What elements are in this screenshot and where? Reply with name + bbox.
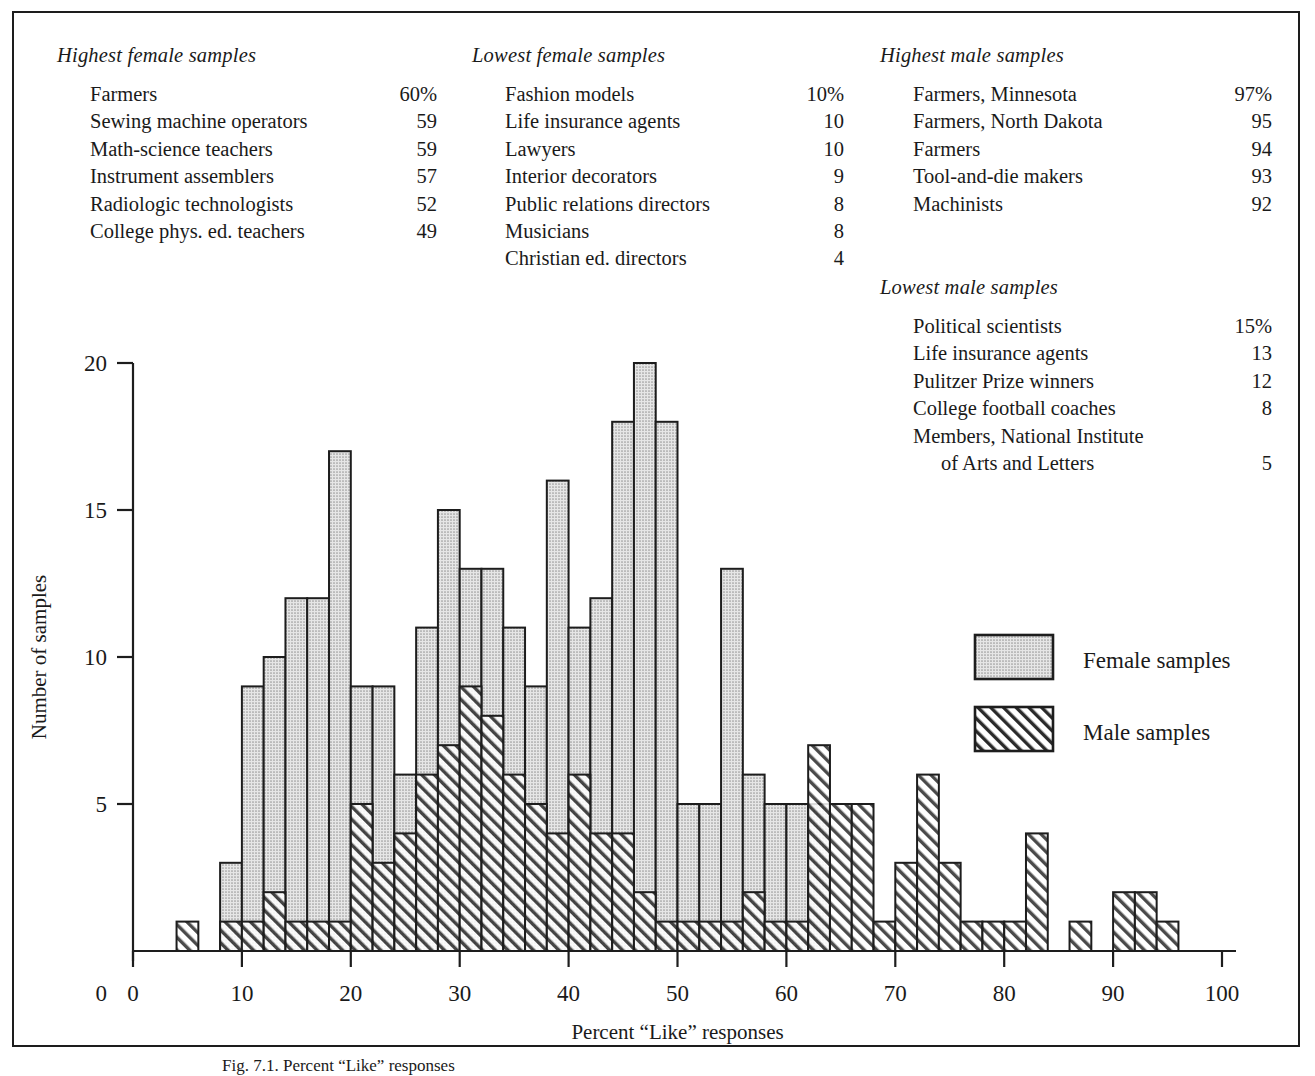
row-value: 4: [792, 245, 844, 272]
bar-male: [939, 863, 961, 951]
row-label: Farmers, North Dakota: [913, 108, 1103, 135]
bar-male: [481, 716, 503, 951]
bar-female: [242, 686, 264, 951]
x-tick-label: 80: [993, 981, 1016, 1006]
bar-male: [329, 922, 351, 951]
bar-male: [786, 922, 808, 951]
table-row: Math-science teachers59: [90, 136, 437, 163]
row-label: Machinists: [913, 191, 1003, 218]
table-rows: Fashion models10%Life insurance agents10…: [505, 81, 844, 273]
row-value: 9: [792, 163, 844, 190]
bar-male: [743, 892, 765, 951]
row-label: Farmers: [90, 81, 157, 108]
table-row: Machinists92: [913, 191, 1272, 218]
legend-swatch-male: [975, 707, 1053, 751]
x-tick-label: 30: [448, 981, 471, 1006]
row-value: 8: [792, 218, 844, 245]
histogram-chart: 010203040506070809010051015200Percent “L…: [0, 330, 1315, 1050]
bar-male: [895, 863, 917, 951]
table-row: Instrument assemblers57: [90, 163, 437, 190]
x-tick-label: 70: [884, 981, 907, 1006]
x-tick-label: 90: [1102, 981, 1125, 1006]
x-tick-label: 10: [230, 981, 253, 1006]
bar-male: [1004, 922, 1026, 951]
table-row: Farmers, North Dakota95: [913, 108, 1272, 135]
y-axis-title: Number of samples: [27, 575, 51, 739]
bar-male: [830, 804, 852, 951]
bar-male: [264, 892, 286, 951]
table-row: Radiologic technologists52: [90, 191, 437, 218]
table-row: Tool-and-die makers93: [913, 163, 1272, 190]
bar-female: [656, 422, 678, 951]
bar-male: [460, 686, 482, 951]
y-tick-label-zero: 0: [96, 981, 108, 1006]
row-label: College phys. ed. teachers: [90, 218, 305, 245]
bar-male: [373, 863, 395, 951]
bar-male: [177, 922, 199, 951]
bar-male: [503, 775, 525, 951]
bar-male: [961, 922, 983, 951]
row-value: 93: [1220, 163, 1272, 190]
x-tick-label: 100: [1205, 981, 1240, 1006]
bar-male: [569, 775, 591, 951]
row-value: 8: [792, 191, 844, 218]
table-row: Christian ed. directors4: [505, 245, 844, 272]
bar-female: [721, 569, 743, 951]
table-row: Lawyers10: [505, 136, 844, 163]
table-rows: Farmers, Minnesota97%Farmers, North Dako…: [913, 81, 1272, 218]
table-row: College phys. ed. teachers49: [90, 218, 437, 245]
bar-male: [242, 922, 264, 951]
row-label: Life insurance agents: [505, 108, 680, 135]
table-highest-female: Highest female samples Farmers60%Sewing …: [57, 44, 437, 245]
table-row: Musicians8: [505, 218, 844, 245]
row-value: 52: [385, 191, 437, 218]
bar-male: [1157, 922, 1179, 951]
bar-female: [307, 598, 329, 951]
row-value: 57: [385, 163, 437, 190]
table-row: Farmers94: [913, 136, 1272, 163]
row-value: 49: [385, 218, 437, 245]
row-value: 60%: [385, 81, 437, 108]
bar-male: [721, 922, 743, 951]
bar-male: [699, 922, 721, 951]
legend-swatch-female: [975, 635, 1053, 679]
table-title: Lowest male samples: [880, 276, 1272, 299]
row-value: 95: [1220, 108, 1272, 135]
bar-male: [874, 922, 896, 951]
row-label: Musicians: [505, 218, 589, 245]
table-highest-male: Highest male samples Farmers, Minnesota9…: [880, 44, 1272, 218]
row-label: Math-science teachers: [90, 136, 273, 163]
x-tick-label: 60: [775, 981, 798, 1006]
figure-caption: Fig. 7.1. Percent “Like” responses: [222, 1056, 455, 1076]
histogram-svg: 010203040506070809010051015200Percent “L…: [0, 330, 1315, 1050]
bar-male: [220, 922, 242, 951]
table-rows: Farmers60%Sewing machine operators59Math…: [90, 81, 437, 245]
row-value: 59: [385, 136, 437, 163]
table-title: Highest male samples: [880, 44, 1272, 67]
bar-male: [1113, 892, 1135, 951]
row-label: Sewing machine operators: [90, 108, 307, 135]
bar-male: [1026, 833, 1048, 951]
row-label: Instrument assemblers: [90, 163, 274, 190]
x-tick-label: 0: [127, 981, 139, 1006]
bar-male: [917, 775, 939, 951]
row-label: Christian ed. directors: [505, 245, 687, 272]
x-tick-label: 50: [666, 981, 689, 1006]
row-label: Radiologic technologists: [90, 191, 293, 218]
row-value: 10%: [792, 81, 844, 108]
row-label: Fashion models: [505, 81, 634, 108]
x-tick-label: 20: [339, 981, 362, 1006]
row-value: 10: [792, 136, 844, 163]
row-label: Public relations directors: [505, 191, 710, 218]
figure-page: Highest female samples Farmers60%Sewing …: [0, 0, 1315, 1076]
y-tick-label: 5: [96, 792, 108, 817]
y-tick-label: 15: [84, 498, 107, 523]
bar-male: [416, 775, 438, 951]
bar-male: [547, 833, 569, 951]
bar-male: [590, 833, 612, 951]
bar-male: [394, 833, 416, 951]
bar-male: [307, 922, 329, 951]
bar-male: [678, 922, 700, 951]
row-value: 94: [1220, 136, 1272, 163]
x-axis-title: Percent “Like” responses: [571, 1020, 783, 1044]
